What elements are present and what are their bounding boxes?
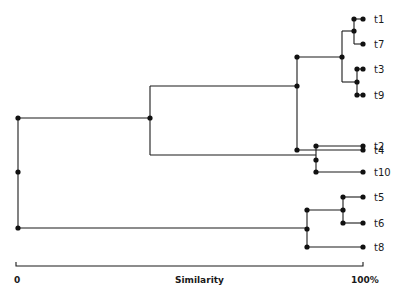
similarity-axis: 0 Similarity 100% xyxy=(14,262,379,285)
node-dot xyxy=(304,226,309,231)
node-dot xyxy=(354,92,359,97)
node-dot xyxy=(15,225,20,230)
leaf-dot-t6 xyxy=(360,220,365,225)
node-dot xyxy=(304,244,309,249)
axis-max-label: 100% xyxy=(351,275,379,285)
leaf-label-t6: t6 xyxy=(374,218,384,229)
leaf-dot-t8 xyxy=(360,244,365,249)
dendrogram-nodes xyxy=(15,16,365,249)
leaf-label-t2: t2 xyxy=(374,141,384,152)
root-node-dot xyxy=(15,169,20,174)
node-dot xyxy=(340,207,345,212)
node-dot xyxy=(340,194,345,199)
node-dot xyxy=(313,143,318,148)
leaf-labels: t1 t7 t3 t9 t4 t2 t10 t5 t6 t8 xyxy=(374,14,391,253)
node-dot xyxy=(294,147,299,152)
leaf-label-t7: t7 xyxy=(374,39,384,50)
node-dot xyxy=(294,54,299,59)
leaf-dot-t9 xyxy=(360,92,365,97)
leaf-label-t10: t10 xyxy=(374,167,391,178)
node-dot xyxy=(313,157,318,162)
node-dot xyxy=(339,54,344,59)
node-dot xyxy=(313,169,318,174)
leaf-label-t5: t5 xyxy=(374,192,384,203)
leaf-dot-t5 xyxy=(360,194,365,199)
axis-line xyxy=(16,262,363,266)
leaf-label-t8: t8 xyxy=(374,242,384,253)
leaf-label-t9: t9 xyxy=(374,90,384,101)
node-dot xyxy=(15,115,20,120)
leaf-dot-t3 xyxy=(360,66,365,71)
node-dot xyxy=(351,28,356,33)
dendrogram-branches xyxy=(18,19,362,247)
axis-title: Similarity xyxy=(175,275,224,285)
node-dot xyxy=(304,207,309,212)
axis-min-label: 0 xyxy=(14,275,20,285)
node-dot xyxy=(351,16,356,21)
leaf-dot-t10 xyxy=(360,169,365,174)
node-dot xyxy=(354,66,359,71)
leaf-dot-t2 xyxy=(360,143,365,148)
dendrogram: t1 t7 t3 t9 t4 t2 t10 t5 t6 t8 0 Similar… xyxy=(0,0,398,300)
node-dot xyxy=(354,79,359,84)
node-dot xyxy=(294,83,299,88)
leaf-label-t1: t1 xyxy=(374,14,384,25)
node-dot xyxy=(147,115,152,120)
leaf-dot-t1 xyxy=(360,16,365,21)
node-dot xyxy=(340,220,345,225)
leaf-label-t3: t3 xyxy=(374,64,384,75)
leaf-dot-t7 xyxy=(360,41,365,46)
